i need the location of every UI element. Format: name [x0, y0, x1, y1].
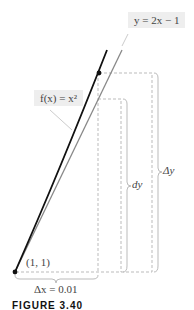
- dy-brace: [123, 99, 131, 272]
- tangent-label: y = 2x − 1: [128, 12, 185, 28]
- curve-label: f(x) = x²: [34, 90, 83, 106]
- delta-x-brace: [15, 275, 98, 283]
- dy-dashed-box: [98, 99, 121, 272]
- delta-y-brace: [154, 73, 162, 272]
- curve-f: [15, 50, 107, 272]
- figure-caption: FIGURE 3.40: [12, 300, 83, 310]
- tangent-leader: [122, 34, 128, 46]
- delta-y-label: Δy: [163, 164, 174, 176]
- delta-x-label: Δx = 0.01: [34, 283, 78, 295]
- dy-label: dy: [132, 178, 142, 190]
- point-x-plus-dx: [97, 71, 102, 76]
- curve-leader: [50, 110, 72, 130]
- tangent-line: [15, 50, 122, 272]
- point-1-1: [13, 270, 18, 275]
- point-label: (1, 1): [26, 256, 50, 268]
